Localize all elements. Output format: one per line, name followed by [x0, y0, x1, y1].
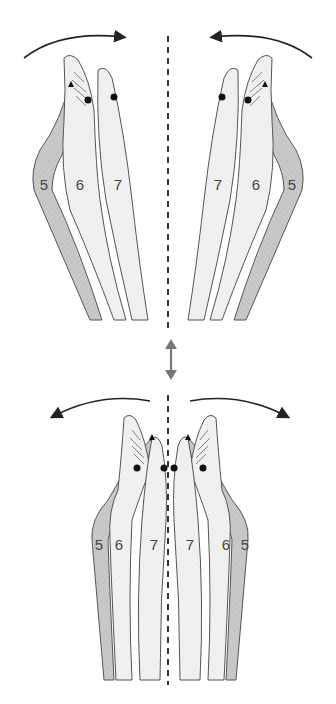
label-7: 7	[186, 536, 194, 553]
label-6: 6	[115, 536, 123, 553]
label-5: 5	[241, 536, 249, 553]
label-7: 7	[150, 536, 158, 553]
rotate-arrow-bottom-right	[190, 399, 286, 416]
dot-marker	[111, 94, 118, 101]
label-7: 7	[114, 176, 122, 193]
diagram-canvas: 5 6 7 7 6 5 5 6 7	[0, 0, 336, 704]
dot-marker	[219, 94, 226, 101]
label-6: 6	[252, 176, 260, 193]
double-arrow-icon	[165, 339, 177, 380]
rotate-arrow-bottom-left	[54, 399, 150, 416]
dot-marker	[134, 465, 141, 472]
dot-marker	[171, 465, 178, 472]
label-5: 5	[288, 176, 296, 193]
dot-marker	[245, 97, 252, 104]
label-6: 6	[76, 176, 84, 193]
rotate-arrow-top-right	[214, 36, 312, 58]
dot-marker	[85, 97, 92, 104]
top-left-group: 5 6 7	[24, 36, 148, 320]
dot-marker	[200, 465, 207, 472]
dot-marker	[161, 465, 168, 472]
label-5: 5	[40, 176, 48, 193]
rotate-arrow-top-left	[24, 36, 122, 58]
label-7: 7	[214, 176, 222, 193]
label-6: 6	[222, 536, 230, 553]
label-5: 5	[95, 536, 103, 553]
